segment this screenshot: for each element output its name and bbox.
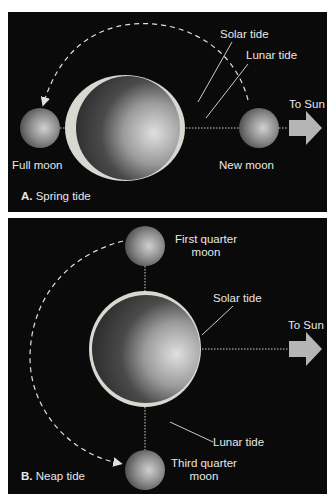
caption-text: Neap tide bbox=[36, 470, 85, 482]
caption-text: Spring tide bbox=[36, 190, 91, 202]
to-sun-arrow-icon bbox=[289, 332, 322, 366]
first-quarter-label: First quarter moon bbox=[168, 233, 244, 259]
caption-letter: B. bbox=[21, 470, 33, 482]
solar-tide-pointer bbox=[202, 306, 233, 335]
third-quarter-line2: moon bbox=[190, 470, 219, 482]
third-quarter-label: Third quarter moon bbox=[166, 457, 242, 483]
solar-tide-pointer bbox=[198, 42, 232, 102]
lunar-tide-pointer bbox=[206, 64, 248, 118]
to-sun-label: To Sun bbox=[289, 98, 325, 111]
neap-tide-panel: First quarter moon Solar tide To Sun Lun… bbox=[8, 218, 327, 494]
to-sun-arrow-icon bbox=[289, 111, 322, 145]
panel-caption: A. Spring tide bbox=[21, 190, 91, 202]
neap-tide-diagram bbox=[8, 218, 327, 494]
earth-icon bbox=[76, 76, 180, 180]
solar-tide-label: Solar tide bbox=[213, 292, 262, 305]
new-moon-label: New moon bbox=[219, 159, 274, 172]
spring-tide-panel: Solar tide Lunar tide To Sun Full moon N… bbox=[8, 12, 327, 212]
lunar-tide-pointer bbox=[170, 422, 213, 442]
new-moon-icon bbox=[239, 108, 279, 148]
panel-caption: B. Neap tide bbox=[21, 470, 85, 482]
first-quarter-line1: First quarter bbox=[175, 233, 237, 245]
full-moon-icon bbox=[20, 108, 60, 148]
earth-icon bbox=[92, 295, 200, 403]
third-quarter-line1: Third quarter bbox=[171, 457, 237, 469]
third-quarter-moon-icon bbox=[125, 450, 165, 490]
lunar-tide-label: Lunar tide bbox=[246, 49, 297, 62]
first-quarter-moon-icon bbox=[125, 226, 165, 266]
first-quarter-line2: moon bbox=[192, 246, 221, 258]
full-moon-label: Full moon bbox=[12, 159, 63, 172]
spring-tide-diagram bbox=[8, 12, 327, 212]
caption-letter: A. bbox=[21, 190, 33, 202]
to-sun-label: To Sun bbox=[288, 319, 324, 332]
solar-tide-label: Solar tide bbox=[220, 28, 269, 41]
lunar-tide-label: Lunar tide bbox=[213, 436, 264, 449]
